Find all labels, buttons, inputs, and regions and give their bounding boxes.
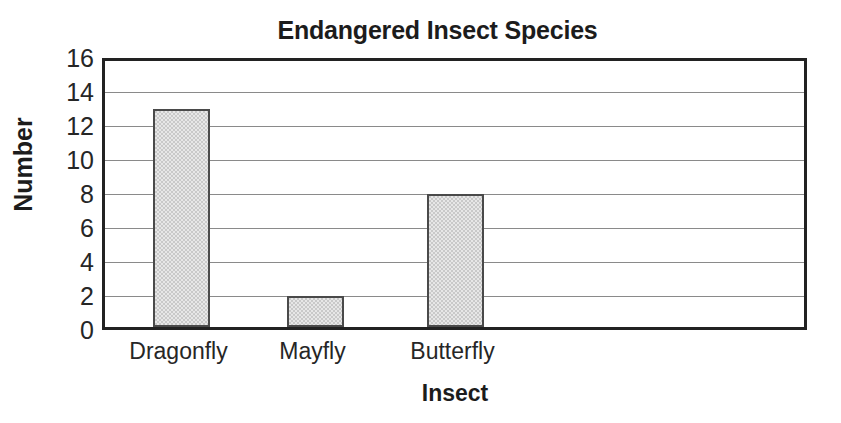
x-axis-title: Insect (375, 380, 535, 407)
x-tick-label-dragonfly: Dragonfly (129, 338, 227, 365)
plot-inner (105, 61, 804, 327)
chart-title-text: Endangered Insect Species (277, 16, 597, 44)
y-tick-label: 12 (54, 114, 94, 139)
y-tick-label: 8 (54, 182, 94, 207)
x-tick-label-butterfly: Butterfly (410, 338, 494, 365)
y-tick-label: 14 (54, 80, 94, 105)
gridline (105, 92, 804, 93)
bar-chart: Endangered Insect Species Number 0246810… (0, 0, 841, 423)
y-tick-label: 4 (54, 250, 94, 275)
x-tick-label-mayfly: Mayfly (279, 338, 345, 365)
y-axis-tick-labels: 0246810121416 (48, 58, 94, 330)
y-tick-label: 6 (54, 216, 94, 241)
chart-title: Endangered Insect Species (0, 16, 841, 45)
y-tick-label: 10 (54, 148, 94, 173)
plot-area (102, 58, 807, 330)
y-tick-label: 0 (54, 318, 94, 343)
bar-mayfly[interactable] (287, 296, 344, 327)
y-tick-label: 2 (54, 284, 94, 309)
y-tick-label: 16 (54, 46, 94, 71)
y-axis-title: Number (9, 95, 38, 235)
bar-butterfly[interactable] (427, 194, 484, 327)
bar-dragonfly[interactable] (153, 109, 210, 327)
